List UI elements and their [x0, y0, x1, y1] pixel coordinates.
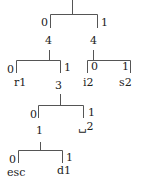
tree-lines — [0, 0, 147, 184]
leaf-esc: esc — [7, 167, 25, 178]
left4-branch — [17, 50, 61, 73]
edge-label-1: 1 — [122, 61, 129, 72]
node1-branch — [19, 142, 63, 163]
leaf-space-2: ␣2 — [78, 121, 93, 132]
node-3: 3 — [55, 80, 62, 91]
edge-label-0: 0 — [41, 17, 48, 28]
edge-label-1: 1 — [66, 152, 73, 163]
root-branch — [51, 0, 98, 28]
node3-branch — [39, 94, 84, 118]
leaf-s2: s2 — [119, 77, 132, 88]
edge-label-1: 1 — [101, 17, 108, 28]
edge-label-1: 1 — [64, 62, 71, 73]
leaf-i2: i2 — [83, 77, 94, 88]
node-left-4: 4 — [45, 35, 52, 46]
leaf-r1: r1 — [14, 77, 26, 88]
leaf-d1: d1 — [57, 165, 71, 176]
node-1: 1 — [36, 125, 43, 136]
edge-label-0: 0 — [7, 64, 14, 75]
edge-label-0: 0 — [30, 109, 37, 120]
node-right-4: 4 — [90, 35, 97, 46]
edge-label-0: 0 — [91, 61, 98, 72]
edge-label-0: 0 — [9, 154, 16, 165]
edge-label-1: 1 — [88, 107, 95, 118]
